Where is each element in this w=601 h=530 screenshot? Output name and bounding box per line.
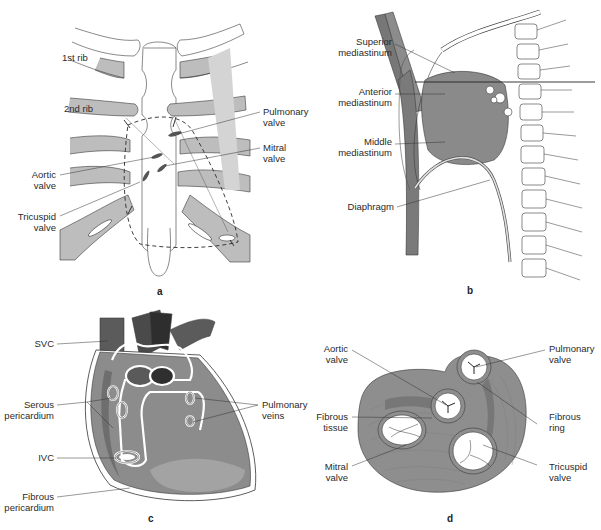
- label-aortic-valve-d: Aortic valve: [310, 343, 348, 365]
- label-fibrous-tissue: Fibrous tissue: [310, 411, 348, 433]
- label-tricuspid-valve-a: Tricuspid valve: [10, 211, 56, 233]
- label-tricuspid-valve-d: Tricuspid valve: [549, 461, 587, 483]
- figure-artwork: [0, 0, 601, 530]
- label-svc: SVC: [10, 338, 54, 349]
- label-superior-mediastinum: Superior mediastinum: [330, 36, 392, 58]
- label-serous-pericardium: Serous pericardium: [0, 399, 54, 421]
- panel-b-artwork: [375, 12, 595, 280]
- label-mitral-valve-a: Mitral valve: [263, 142, 286, 164]
- label-fibrous-pericardium: Fibrous pericardium: [0, 491, 54, 513]
- label-pulmonary-valve-d: Pulmonary valve: [549, 343, 594, 365]
- panel-c-artwork: [85, 310, 255, 501]
- panel-letter-b: b: [467, 285, 473, 296]
- panel-letter-c: c: [148, 513, 154, 524]
- panel-a-artwork: [60, 24, 250, 276]
- label-2nd-rib: 2nd rib: [64, 103, 93, 114]
- panel-letter-a: a: [157, 286, 163, 297]
- label-pulmonary-valve-a: Pulmonary valve: [263, 106, 308, 128]
- panel-letter-d: d: [447, 513, 453, 524]
- label-middle-mediastinum: Middle mediastinum: [330, 136, 392, 158]
- label-anterior-mediastinum: Anterior mediastinum: [330, 86, 392, 108]
- label-mitral-valve-d: Mitral valve: [310, 461, 348, 483]
- label-pulmonary-veins: Pulmonary veins: [262, 399, 307, 421]
- label-ivc: IVC: [10, 452, 54, 463]
- panel-d-artwork: [358, 350, 526, 492]
- label-diaphragm: Diaphragm: [330, 201, 394, 212]
- label-1st-rib: 1st rib: [62, 52, 88, 63]
- label-fibrous-ring: Fibrous ring: [549, 411, 581, 433]
- label-aortic-valve-a: Aortic valve: [20, 169, 56, 191]
